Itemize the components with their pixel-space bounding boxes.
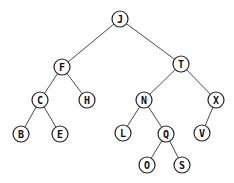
tree-nodes: JFTCHNXBELQVOS: [13, 11, 224, 173]
node-label: N: [141, 95, 147, 106]
tree-node-c: C: [32, 92, 48, 108]
tree-node-h: H: [79, 92, 95, 108]
node-label: V: [199, 128, 205, 139]
tree-node-b: B: [13, 126, 29, 142]
binary-tree-diagram: JFTCHNXBELQVOS: [0, 0, 234, 183]
tree-node-j: J: [112, 11, 128, 27]
tree-node-f: F: [54, 59, 70, 75]
node-label: B: [18, 129, 24, 140]
tree-edges: [21, 19, 216, 165]
node-label: Q: [163, 129, 169, 140]
node-label: O: [144, 160, 150, 171]
tree-node-e: E: [52, 126, 68, 142]
tree-node-q: Q: [158, 126, 174, 142]
node-label: J: [117, 14, 123, 25]
node-label: F: [59, 62, 65, 73]
tree-node-x: X: [208, 92, 224, 108]
tree-node-v: V: [194, 125, 210, 141]
edge-j-f: [62, 19, 120, 67]
node-label: E: [57, 129, 63, 140]
node-label: C: [37, 95, 43, 106]
edge-j-t: [120, 19, 181, 64]
node-label: T: [178, 59, 184, 70]
tree-node-o: O: [139, 157, 155, 173]
node-label: L: [120, 128, 126, 139]
tree-node-t: T: [173, 56, 189, 72]
node-label: H: [84, 95, 90, 106]
node-label: X: [213, 95, 219, 106]
tree-node-l: L: [115, 125, 131, 141]
node-label: S: [179, 160, 185, 171]
tree-node-n: N: [136, 92, 152, 108]
tree-node-s: S: [174, 157, 190, 173]
